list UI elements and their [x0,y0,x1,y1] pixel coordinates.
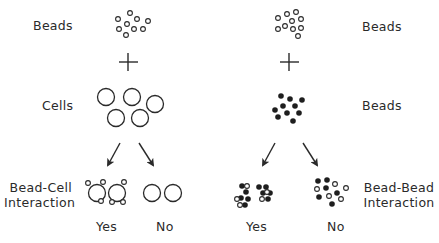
cells-cluster [98,89,164,127]
bead-cell-no-label: No [156,219,174,234]
right-top-beads-label: Beads [362,19,402,34]
bead-bead-interaction-label-line1: Bead-Bead [362,180,436,195]
bead-cell-no-cluster [144,185,182,202]
right-arrows [263,143,317,165]
bead-cell-interaction-label-line2: Interaction [4,195,72,210]
left-open-beads-cluster [116,11,151,38]
right-middle-beads-label: Beads [362,98,402,113]
bead-bead-yes-label: Yes [246,219,267,234]
left-beads-label: Beads [33,18,73,33]
left-no-arrow [139,143,153,165]
right-yes-arrow [263,143,275,165]
right-no-arrow [303,143,317,165]
left-yes-arrow [108,143,120,165]
right-filled-beads-cluster [272,93,305,124]
bead-bead-yes-cluster [235,183,273,208]
bead-bead-no-label: No [327,219,345,234]
bead-bead-no-cluster [315,177,349,207]
right-plus-icon [280,53,299,71]
bead-bead-interaction-label-line2: Interaction [362,195,436,210]
bead-cell-yes-cluster [86,180,127,205]
bead-cell-yes-label: Yes [96,219,117,234]
left-arrows [108,143,153,165]
left-plus-icon [119,53,138,71]
cells-label: Cells [42,98,73,113]
bead-cell-interaction-label-line1: Bead-Cell [8,180,72,195]
bead-interaction-diagram: Beads Cells Bead-Cell Interaction Yes No… [0,0,439,243]
right-open-beads-cluster [276,10,304,39]
